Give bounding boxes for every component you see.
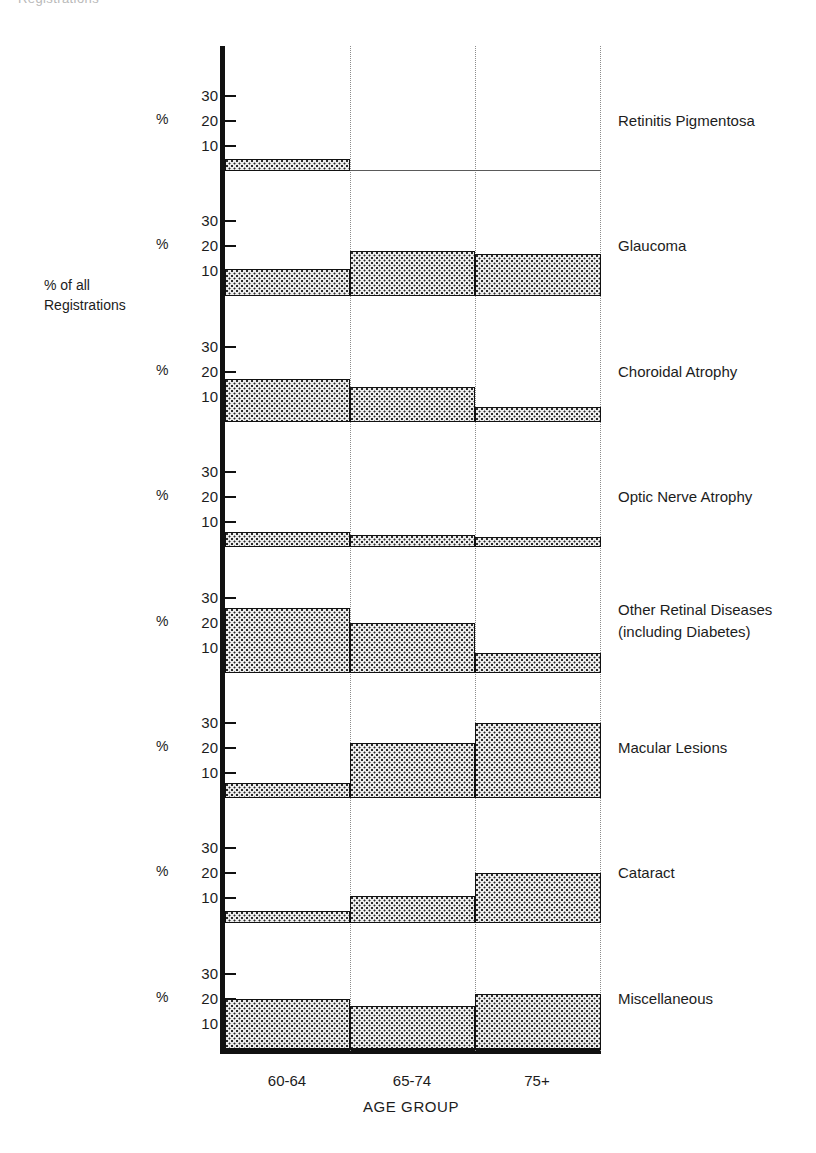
y-axis-percent-symbol: %: [156, 613, 168, 629]
bar-75+: [475, 407, 601, 422]
y-tick-label-20: 20: [178, 361, 218, 382]
bar-75+: [475, 653, 601, 673]
y-tick-label-30: 30: [178, 587, 218, 608]
y-tick-label-30: 30: [178, 336, 218, 357]
plot-area: [225, 798, 601, 923]
panel-miscellaneous: 302010%Miscellaneous: [0, 924, 816, 1049]
bar-75+: [475, 994, 601, 1049]
series-label: Glaucoma: [618, 235, 686, 257]
y-axis-percent-symbol: %: [156, 362, 168, 378]
bar-60-64: [225, 999, 350, 1049]
bar-75+: [475, 254, 601, 297]
bar-60-64: [225, 379, 350, 422]
y-tick-label-20: 20: [178, 988, 218, 1009]
series-label-line1: Cataract: [618, 862, 675, 884]
y-tick-label-20: 20: [178, 612, 218, 633]
series-label-line2: (including Diabetes): [618, 621, 772, 643]
y-tick-label-10: 10: [178, 135, 218, 156]
panel-cataract: 302010%Cataract: [0, 798, 816, 923]
panel-glaucoma: 302010%Glaucoma: [0, 171, 816, 296]
bar-75+: [475, 873, 601, 923]
bar-65-74: [350, 1006, 475, 1049]
y-tick-label-10: 10: [178, 386, 218, 407]
y-tick-label-10: 10: [178, 260, 218, 281]
y-tick-label-30: 30: [178, 712, 218, 733]
series-label: Other Retinal Diseases(including Diabete…: [618, 599, 772, 643]
bar-60-64: [225, 783, 350, 798]
series-label-line1: Macular Lesions: [618, 737, 727, 759]
y-tick-label-10: 10: [178, 637, 218, 658]
x-tick-label-0: 60-64: [227, 1072, 347, 1089]
x-axis-title: AGE GROUP: [281, 1098, 541, 1115]
bar-75+: [475, 723, 601, 798]
y-tick-label-30: 30: [178, 963, 218, 984]
bar-75+: [475, 537, 601, 547]
bar-60-64: [225, 159, 350, 172]
series-label-line1: Optic Nerve Atrophy: [618, 486, 752, 508]
plot-area: [225, 171, 601, 296]
series-label-line1: Miscellaneous: [618, 988, 713, 1010]
plot-area: [225, 924, 601, 1049]
plot-area: [225, 46, 601, 171]
y-tick-label-10: 10: [178, 1013, 218, 1034]
y-axis-percent-symbol: %: [156, 487, 168, 503]
panel-macular-lesions: 302010%Macular Lesions: [0, 673, 816, 798]
y-tick-label-20: 20: [178, 486, 218, 507]
y-tick-label-20: 20: [178, 862, 218, 883]
y-tick-label-20: 20: [178, 110, 218, 131]
series-label-line1: Glaucoma: [618, 235, 686, 257]
y-axis-percent-symbol: %: [156, 111, 168, 127]
bar-65-74: [350, 387, 475, 422]
panel-retinitis-pigmentosa: 302010%Retinitis Pigmentosa: [0, 46, 816, 171]
series-label-line1: Other Retinal Diseases: [618, 599, 772, 621]
panel-choroidal-atrophy: 302010%Choroidal Atrophy: [0, 297, 816, 422]
bar-65-74: [350, 251, 475, 296]
bar-65-74: [350, 623, 475, 673]
x-tick-label-2: 75+: [477, 1072, 597, 1089]
plot-area: [225, 673, 601, 798]
bar-60-64: [225, 911, 350, 924]
series-label: Choroidal Atrophy: [618, 361, 737, 383]
y-tick-label-30: 30: [178, 85, 218, 106]
bar-60-64: [225, 608, 350, 673]
x-axis-baseline: [220, 1049, 601, 1054]
multi-panel-bar-chart: % of all Registrations 302010%Retinitis …: [0, 0, 816, 1153]
series-label: Optic Nerve Atrophy: [618, 486, 752, 508]
series-label: Cataract: [618, 862, 675, 884]
y-axis-percent-symbol: %: [156, 738, 168, 754]
y-tick-label-30: 30: [178, 461, 218, 482]
y-axis-percent-symbol: %: [156, 236, 168, 252]
y-tick-label-30: 30: [178, 210, 218, 231]
bar-65-74: [350, 896, 475, 924]
series-label: Miscellaneous: [618, 988, 713, 1010]
series-label: Retinitis Pigmentosa: [618, 110, 755, 132]
y-tick-label-10: 10: [178, 887, 218, 908]
y-tick-label-20: 20: [178, 737, 218, 758]
plot-area: [225, 422, 601, 547]
series-label: Macular Lesions: [618, 737, 727, 759]
plot-area: [225, 297, 601, 422]
y-axis-percent-symbol: %: [156, 863, 168, 879]
y-tick-label-30: 30: [178, 837, 218, 858]
panel-other-retinal-diseases: 302010%Other Retinal Diseases(including …: [0, 548, 816, 673]
x-tick-label-1: 65-74: [352, 1072, 472, 1089]
bar-65-74: [350, 743, 475, 798]
y-tick-label-20: 20: [178, 235, 218, 256]
plot-area: [225, 548, 601, 673]
y-tick-label-10: 10: [178, 762, 218, 783]
series-label-line1: Choroidal Atrophy: [618, 361, 737, 383]
panel-optic-nerve-atrophy: 302010%Optic Nerve Atrophy: [0, 422, 816, 547]
y-tick-label-10: 10: [178, 511, 218, 532]
series-label-line1: Retinitis Pigmentosa: [618, 110, 755, 132]
bar-60-64: [225, 532, 350, 547]
bar-60-64: [225, 269, 350, 297]
bar-65-74: [350, 535, 475, 548]
y-axis-percent-symbol: %: [156, 989, 168, 1005]
